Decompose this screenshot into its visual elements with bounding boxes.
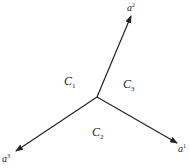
region-c1-label: C1 xyxy=(64,74,76,90)
label-a3: a3 xyxy=(2,153,10,164)
vector-a1-arrow xyxy=(97,97,177,143)
region-c3-label: C3 xyxy=(123,77,135,93)
vector-a3-arrow xyxy=(16,97,97,151)
label-a1: a1 xyxy=(178,143,186,154)
label-a2: a2 xyxy=(127,2,135,13)
region-c2-label: C2 xyxy=(92,125,104,141)
cone-diagram: a2 a1 a3 C1 C3 C2 xyxy=(0,0,190,168)
